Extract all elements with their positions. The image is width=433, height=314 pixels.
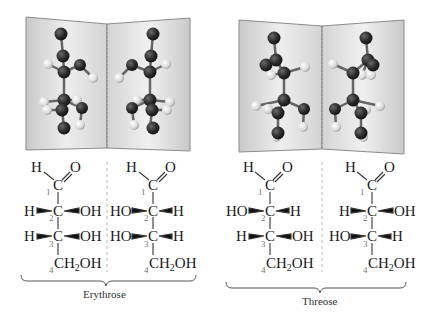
carbon-number: 4 bbox=[49, 266, 54, 275]
carbon-1: C bbox=[53, 178, 63, 193]
atom-h-aldehyde: H bbox=[31, 160, 42, 175]
ch2oh-group: CH2OH bbox=[266, 256, 314, 273]
atom-h-aldehyde: H bbox=[345, 160, 356, 175]
c3-left-group: H bbox=[236, 229, 247, 244]
oh-text: OH bbox=[394, 255, 416, 271]
c2-right-group: H bbox=[290, 204, 301, 219]
carbon-number: 1 bbox=[258, 188, 263, 197]
carbon-2: C bbox=[53, 204, 63, 219]
c3-left-group: H bbox=[24, 229, 35, 244]
atom-h-aldehyde: H bbox=[243, 160, 254, 175]
atom-o-aldehyde: O bbox=[70, 160, 81, 175]
ch2oh-group: CH2OH bbox=[368, 256, 416, 273]
carbon-3: C bbox=[367, 229, 377, 244]
ch-text: CH bbox=[149, 255, 170, 271]
carbon-2: C bbox=[148, 204, 158, 219]
ch-text: CH bbox=[54, 255, 75, 271]
carbon-2: C bbox=[367, 204, 377, 219]
c2-right-group: H bbox=[173, 204, 184, 219]
threose-caption: Threose bbox=[302, 295, 337, 307]
braces bbox=[21, 275, 406, 293]
carbon-number: 1 bbox=[46, 188, 51, 197]
carbon-1: C bbox=[367, 178, 377, 193]
atom-o-aldehyde: O bbox=[282, 160, 293, 175]
carbon-number: 4 bbox=[363, 266, 368, 275]
carbon-1: C bbox=[265, 178, 275, 193]
carbon-number: 1 bbox=[360, 188, 365, 197]
carbon-number: 1 bbox=[141, 188, 146, 197]
c3-right-group: OH bbox=[80, 229, 102, 244]
erythrose-mirror-book bbox=[26, 17, 190, 151]
ch2oh-group: CH2OH bbox=[54, 256, 102, 273]
carbon-3: C bbox=[148, 229, 158, 244]
ch-text: CH bbox=[368, 255, 389, 271]
c3-right-group: H bbox=[173, 229, 184, 244]
c3-right-group: H bbox=[392, 229, 403, 244]
carbon-number: 4 bbox=[261, 266, 266, 275]
c2-left-group: HO bbox=[226, 204, 248, 219]
carbon-3: C bbox=[53, 229, 63, 244]
ch-text: CH bbox=[266, 255, 287, 271]
c2-right-group: OH bbox=[80, 204, 102, 219]
c3-right-group: OH bbox=[292, 229, 314, 244]
c3-left-group: HO bbox=[110, 229, 132, 244]
c2-left-group: H bbox=[24, 204, 35, 219]
carbon-2: C bbox=[265, 204, 275, 219]
oh-text: OH bbox=[80, 255, 102, 271]
carbon-number: 4 bbox=[144, 266, 149, 275]
carbon-1: C bbox=[148, 178, 158, 193]
c2-left-group: HO bbox=[110, 204, 132, 219]
threose-mirror-book bbox=[239, 20, 404, 154]
carbon-3: C bbox=[265, 229, 275, 244]
ch2oh-group: CH2OH bbox=[149, 256, 197, 273]
c2-right-group: OH bbox=[394, 204, 416, 219]
atom-h-aldehyde: H bbox=[126, 160, 137, 175]
c3-left-group: HO bbox=[329, 229, 351, 244]
erythrose-caption: Erythrose bbox=[83, 288, 126, 300]
c2-left-group: H bbox=[339, 204, 350, 219]
atom-o-aldehyde: O bbox=[165, 160, 176, 175]
atom-o-aldehyde: O bbox=[384, 160, 395, 175]
oh-text: OH bbox=[292, 255, 314, 271]
oh-text: OH bbox=[175, 255, 197, 271]
